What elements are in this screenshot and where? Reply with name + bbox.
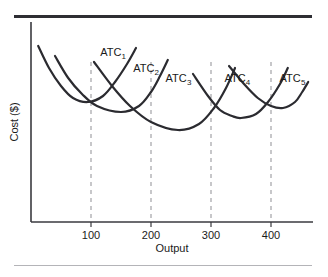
curve-label-text: ATC <box>280 72 301 84</box>
curve-label-text: ATC <box>133 62 154 74</box>
curve-label-text: ATC <box>100 46 121 58</box>
curve-label-text: ATC <box>166 72 187 84</box>
x-tick-label-400: 400 <box>262 229 280 241</box>
curve-label-atc2: ATC2 <box>133 62 159 77</box>
x-tick-labels-group: 100200300400 <box>82 229 280 241</box>
top-divider-rule <box>14 15 312 18</box>
curve-label-atc5: ATC5 <box>280 72 306 87</box>
curve-label-atc3: ATC3 <box>166 72 192 87</box>
x-tick-label-300: 300 <box>202 229 220 241</box>
cost-curve-chart: 100200300400 ATC1ATC2ATC3ATC4ATC5 Output… <box>0 0 328 277</box>
curve-label-subscript: 3 <box>187 78 192 87</box>
curve-label-text: ATC <box>224 72 245 84</box>
curve-label-subscript: 4 <box>246 78 251 87</box>
x-tick-label-200: 200 <box>142 229 160 241</box>
curve-label-subscript: 1 <box>122 52 127 61</box>
bottom-divider-rule <box>14 265 312 266</box>
curve-label-atc1: ATC1 <box>100 46 126 61</box>
x-axis-title: Output <box>155 242 188 254</box>
x-tick-label-100: 100 <box>82 229 100 241</box>
y-axis-title: Cost ($) <box>8 102 20 141</box>
curve-label-subscript: 2 <box>155 68 160 77</box>
curve-label-subscript: 5 <box>301 78 306 87</box>
curves-group <box>38 46 308 130</box>
figure-container: 100200300400 ATC1ATC2ATC3ATC4ATC5 Output… <box>0 0 328 277</box>
curve-atc3 <box>94 62 235 130</box>
curve-labels-group: ATC1ATC2ATC3ATC4ATC5 <box>100 46 306 87</box>
guide-lines-group <box>91 62 271 221</box>
